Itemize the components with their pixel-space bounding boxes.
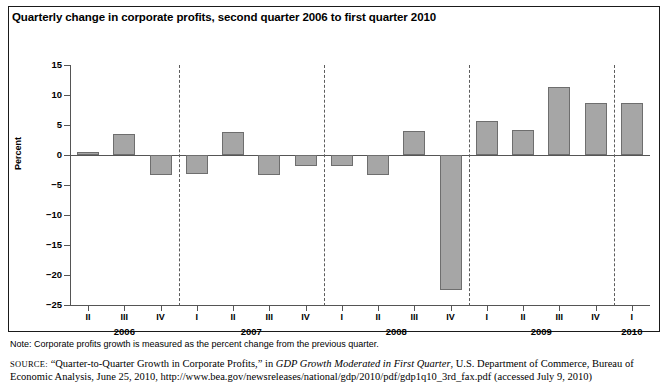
source-italic-title: GDP Growth Moderated in First Quarter	[276, 358, 451, 369]
year-separator	[179, 65, 180, 306]
chart-note: Note: Corporate profits growth is measur…	[10, 339, 379, 349]
year-separator	[469, 65, 470, 306]
source-pre-italic: “Quarter-to-Quarter Growth in Corporate …	[48, 358, 276, 369]
year-label: 2007	[221, 326, 281, 337]
y-tick-label-text: 5	[28, 119, 62, 130]
bar	[77, 152, 99, 155]
y-tick-mark	[64, 305, 70, 306]
y-tick-label: −15	[22, 239, 62, 251]
bar	[113, 134, 135, 155]
y-tick-label-text: 0	[28, 149, 62, 160]
bar	[367, 155, 389, 175]
x-tick-label: II	[218, 312, 248, 322]
x-tick-mark	[451, 305, 452, 311]
y-axis-line	[70, 65, 71, 306]
year-label: 2008	[366, 326, 426, 337]
bar	[440, 155, 462, 290]
y-tick-mark	[64, 95, 70, 96]
year-separator	[324, 65, 325, 306]
y-tick-label: 5	[22, 119, 62, 131]
x-tick-label: III	[109, 312, 139, 322]
y-tick-label: 15	[22, 59, 62, 71]
bar	[403, 131, 425, 155]
y-tick-label-text: −10	[28, 209, 62, 220]
y-tick-mark	[64, 185, 70, 186]
bar	[331, 155, 353, 166]
year-label: 2009	[511, 326, 571, 337]
y-tick-label-text: −25	[28, 299, 62, 310]
y-tick-mark	[64, 65, 70, 66]
x-tick-mark	[523, 305, 524, 311]
x-tick-mark	[124, 305, 125, 311]
year-separator	[614, 65, 615, 306]
x-tick-label: III	[254, 312, 284, 322]
x-tick-mark	[233, 305, 234, 311]
x-tick-mark	[414, 305, 415, 311]
x-tick-label: IV	[436, 312, 466, 322]
bar	[186, 155, 208, 174]
chart-plot-area: Percent 151050−5−10−15−20−25 IIIIIIVIIII…	[0, 0, 670, 383]
x-tick-mark	[596, 305, 597, 311]
bar	[295, 155, 317, 166]
x-tick-label: III	[544, 312, 574, 322]
x-tick-label: III	[399, 312, 429, 322]
x-tick-label: IV	[291, 312, 321, 322]
y-tick-label-text: −5	[28, 179, 62, 190]
x-tick-mark	[632, 305, 633, 311]
bar	[258, 155, 280, 175]
x-tick-label: II	[73, 312, 103, 322]
source-kicker: SOURCE:	[10, 359, 48, 369]
bar	[585, 103, 607, 155]
y-tick-label-text: −20	[28, 269, 62, 280]
x-tick-label: I	[327, 312, 357, 322]
x-tick-mark	[487, 305, 488, 311]
bar	[512, 130, 534, 155]
bar	[150, 155, 172, 175]
x-axis-line	[70, 305, 650, 306]
y-tick-mark	[64, 155, 70, 156]
x-tick-mark	[269, 305, 270, 311]
x-tick-label: I	[617, 312, 647, 322]
x-tick-label: IV	[146, 312, 176, 322]
y-tick-mark	[64, 125, 70, 126]
y-tick-label: −5	[22, 179, 62, 191]
x-tick-mark	[306, 305, 307, 311]
bar	[222, 132, 244, 155]
y-tick-label-text: 15	[28, 59, 62, 70]
y-tick-mark	[64, 275, 70, 276]
x-tick-mark	[197, 305, 198, 311]
bar	[621, 103, 643, 155]
x-tick-mark	[342, 305, 343, 311]
y-tick-label-text: −15	[28, 239, 62, 250]
x-tick-mark	[559, 305, 560, 311]
year-label: 2010	[602, 326, 662, 337]
x-tick-label: IV	[581, 312, 611, 322]
x-tick-mark	[161, 305, 162, 311]
y-tick-label-text: 10	[28, 89, 62, 100]
chart-source: SOURCE: “Quarter-to-Quarter Growth in Co…	[10, 358, 662, 383]
year-label: 2006	[94, 326, 154, 337]
x-tick-mark	[88, 305, 89, 311]
y-tick-mark	[64, 245, 70, 246]
x-tick-label: II	[363, 312, 393, 322]
bar	[548, 87, 570, 155]
y-tick-label: 10	[22, 89, 62, 101]
x-tick-label: I	[182, 312, 212, 322]
bar	[476, 121, 498, 155]
x-tick-label: II	[508, 312, 538, 322]
y-tick-label: −10	[22, 209, 62, 221]
x-tick-mark	[378, 305, 379, 311]
y-tick-mark	[64, 215, 70, 216]
y-tick-label: −25	[22, 299, 62, 311]
x-tick-label: I	[472, 312, 502, 322]
y-tick-label: 0	[22, 149, 62, 161]
y-tick-label: −20	[22, 269, 62, 281]
